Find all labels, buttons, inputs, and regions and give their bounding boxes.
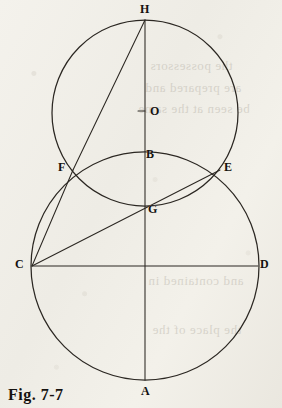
segments-group: [32, 20, 258, 380]
point-label-E: E: [224, 161, 232, 173]
geometric-figure: [0, 0, 282, 408]
point-label-C: C: [15, 258, 24, 270]
figure-caption: Fig. 7-7: [8, 386, 64, 404]
chord-CF: [32, 170, 73, 266]
point-label-F: F: [58, 161, 65, 173]
point-label-D: D: [260, 258, 269, 270]
figure-page: the possessorsare prepared andbe seen at…: [0, 0, 282, 408]
point-label-A: A: [141, 385, 150, 397]
point-label-B: B: [146, 148, 154, 160]
chord-CE: [32, 170, 220, 266]
point-label-O: O: [150, 105, 159, 117]
point-label-H: H: [140, 3, 149, 15]
point-label-G: G: [148, 203, 157, 215]
